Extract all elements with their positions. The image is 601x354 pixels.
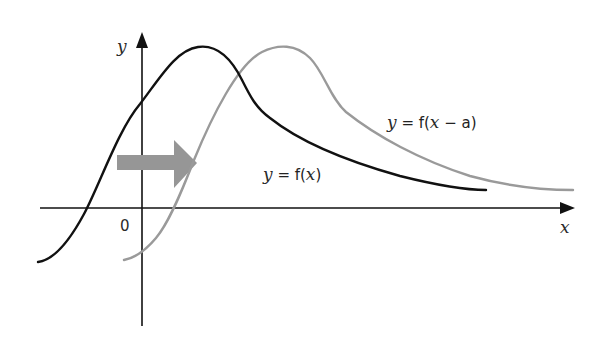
label-shifted-curve: y = f(x − a) bbox=[386, 112, 477, 132]
label-original-curve: y = f(x) bbox=[262, 164, 321, 184]
curve-shifted bbox=[124, 47, 573, 260]
curve-original bbox=[38, 47, 486, 262]
label-shifted-arg: x bbox=[430, 112, 440, 132]
translation-diagram: y x 0 y = f(x) y = f(x − a) bbox=[0, 0, 601, 354]
label-original-close: ) bbox=[315, 166, 321, 184]
y-axis-arrowhead-icon bbox=[136, 32, 148, 48]
label-shifted-rest: − a) bbox=[439, 114, 476, 132]
y-axis bbox=[136, 32, 148, 326]
label-original-arg: x bbox=[306, 164, 316, 184]
x-axis-label: x bbox=[560, 217, 570, 237]
label-shifted-eq: = f( bbox=[397, 114, 430, 132]
x-axis bbox=[40, 202, 575, 214]
origin-label: 0 bbox=[120, 217, 130, 235]
label-shifted-var: y bbox=[386, 112, 397, 132]
x-axis-arrowhead-icon bbox=[560, 202, 575, 214]
label-original-var: y bbox=[262, 164, 273, 184]
y-axis-label: y bbox=[116, 36, 127, 56]
label-original-eq: = f( bbox=[273, 166, 306, 184]
